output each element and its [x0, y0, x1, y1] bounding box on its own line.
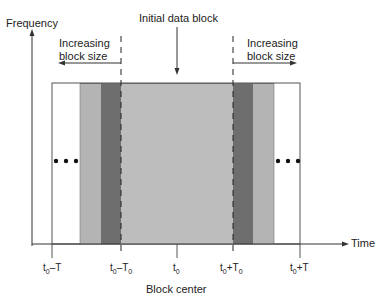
y-axis-label: Frequency: [6, 17, 58, 29]
tick-label-4: t0+T: [290, 262, 309, 275]
right-annotation-line1: Increasing: [247, 37, 298, 50]
left-ellipsis-icon: [54, 159, 78, 163]
right-light-block: [253, 83, 274, 244]
y-axis-arrow-icon: [30, 29, 35, 36]
left-annotation-line1: Increasing: [59, 37, 110, 50]
left-dark-block: [101, 83, 121, 244]
block-center-caption: Block center: [146, 283, 207, 295]
right-ellipsis-icon: [276, 159, 300, 163]
center-block-label: Initial data block: [139, 12, 218, 24]
left-annotation-line2: block size: [59, 50, 110, 63]
tick-label-0: t0–T: [43, 262, 61, 275]
tick-label-3: t0+T0: [220, 262, 243, 275]
initial-data-block: [121, 83, 233, 244]
right-dark-block: [233, 83, 253, 244]
down-arrow-icon: [175, 68, 180, 75]
x-axis-label: Time: [351, 237, 375, 249]
tick-label-1: t0–T0: [110, 262, 132, 275]
tick-label-2: t0: [173, 262, 180, 275]
left-light-block: [80, 83, 101, 244]
left-annotation: Increasing block size: [59, 37, 110, 63]
right-annotation-line2: block size: [247, 50, 298, 63]
right-annotation: Increasing block size: [247, 37, 298, 63]
x-axis-arrow-icon: [342, 242, 349, 247]
